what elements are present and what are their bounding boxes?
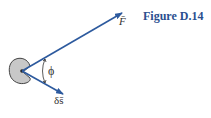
force-vector-arrow (22, 13, 122, 71)
displacement-label: δs̄ (54, 94, 63, 106)
angle-arc (43, 59, 46, 83)
rigid-body (9, 58, 30, 83)
figure-caption: Figure D.14 (143, 9, 203, 24)
angle-label: ϕ (48, 64, 54, 79)
force-label: F̄ (119, 15, 126, 27)
